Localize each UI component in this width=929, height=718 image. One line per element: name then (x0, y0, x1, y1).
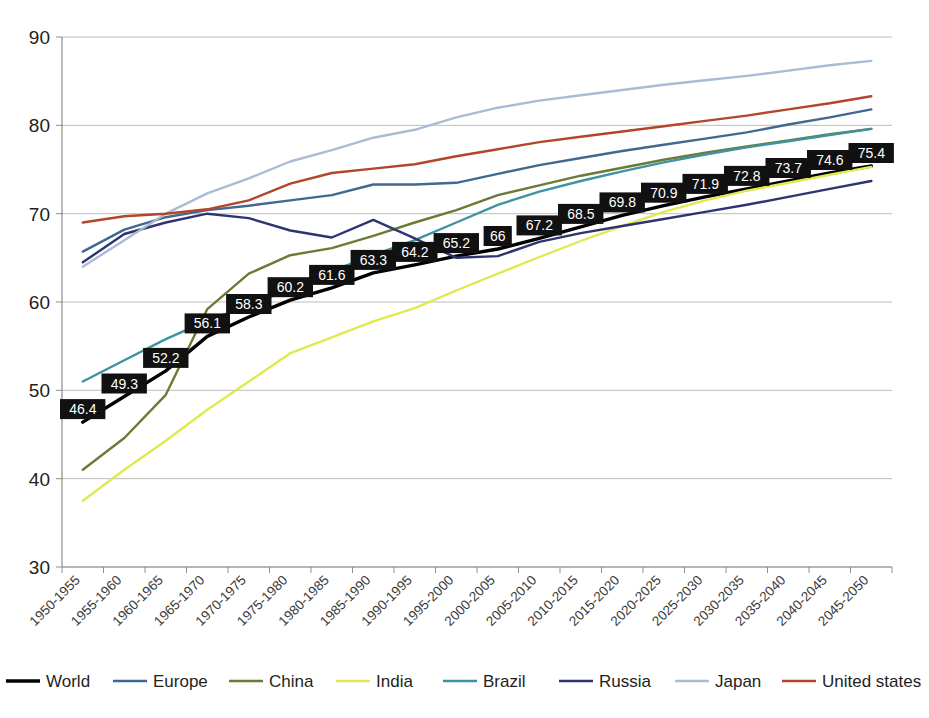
data-label-value: 72.8 (733, 168, 760, 184)
data-label: 74.6 (807, 150, 852, 170)
data-label: 67.2 (517, 215, 562, 235)
data-label: 71.9 (683, 174, 728, 194)
legend-label: Europe (153, 672, 208, 691)
legend-label: Japan (715, 672, 761, 691)
y-tick-label: 70 (29, 204, 50, 225)
data-label: 72.8 (724, 166, 769, 186)
y-tick-label: 90 (29, 27, 50, 48)
y-axis-tick-labels: 30405060708090 (29, 27, 50, 578)
data-label-value: 69.8 (609, 194, 636, 210)
legend-item-india[interactable]: India (336, 672, 413, 691)
data-label: 75.4 (849, 143, 894, 163)
data-label-value: 64.2 (401, 244, 428, 260)
data-label-value: 61.6 (318, 267, 345, 283)
axes-group (56, 37, 892, 573)
gridlines-group (62, 37, 892, 567)
data-label-value: 60.2 (277, 279, 304, 295)
legend-item-japan[interactable]: Japan (675, 672, 761, 691)
data-label-value: 49.3 (111, 376, 138, 392)
legend-label: United states (822, 672, 921, 691)
y-tick-label: 60 (29, 292, 50, 313)
y-tick-label: 50 (29, 380, 50, 401)
series-line-india (83, 167, 872, 501)
data-label-value: 75.4 (858, 145, 885, 161)
data-label: 66 (484, 226, 512, 246)
legend-item-brazil[interactable]: Brazil (443, 672, 526, 691)
data-label: 63.3 (351, 250, 396, 270)
data-label-value: 65.2 (443, 235, 470, 251)
data-label-value: 52.2 (152, 350, 179, 366)
legend-label: Russia (599, 672, 652, 691)
y-tick-label: 40 (29, 469, 50, 490)
data-label: 70.9 (641, 183, 686, 203)
data-label-value: 56.1 (194, 315, 221, 331)
data-label: 58.3 (226, 294, 271, 314)
legend-item-world[interactable]: World (6, 672, 90, 691)
legend-label: India (376, 672, 413, 691)
life-expectancy-line-chart: 30405060708090 1950-19551955-19601960-19… (0, 0, 929, 718)
legend-label: Brazil (483, 672, 526, 691)
data-label: 46.4 (60, 399, 105, 419)
data-label: 65.2 (434, 233, 479, 253)
y-tick-label: 30 (29, 557, 50, 578)
legend-item-europe[interactable]: Europe (113, 672, 208, 691)
data-label: 56.1 (185, 313, 230, 333)
data-label-value: 68.5 (567, 206, 594, 222)
x-axis-tick-labels: 1950-19551955-19601960-19651965-19701970… (27, 573, 872, 629)
legend-item-russia[interactable]: Russia (559, 672, 652, 691)
data-label-value: 67.2 (526, 217, 553, 233)
legend-item-united-states[interactable]: United states (782, 672, 921, 691)
legend-item-china[interactable]: China (229, 672, 314, 691)
y-tick-label: 80 (29, 115, 50, 136)
data-label-value: 66 (490, 228, 506, 244)
data-label: 73.7 (766, 158, 811, 178)
data-label-value: 46.4 (69, 401, 96, 417)
chart-plot-area: 30405060708090 1950-19551955-19601960-19… (0, 0, 929, 718)
data-label: 52.2 (143, 348, 188, 368)
data-label-value: 58.3 (235, 296, 262, 312)
data-label: 60.2 (268, 277, 313, 297)
data-label: 69.8 (600, 192, 645, 212)
data-label-value: 70.9 (650, 185, 677, 201)
data-label-value: 73.7 (775, 160, 802, 176)
data-label: 61.6 (309, 265, 354, 285)
chart-legend: WorldEuropeChinaIndiaBrazilRussiaJapanUn… (6, 672, 921, 691)
data-label: 64.2 (392, 242, 437, 262)
legend-label: World (46, 672, 90, 691)
data-label-value: 74.6 (816, 152, 843, 168)
data-label-value: 71.9 (692, 176, 719, 192)
data-label-value: 63.3 (360, 252, 387, 268)
legend-label: China (269, 672, 314, 691)
series-lines-group (83, 61, 872, 501)
data-label: 68.5 (558, 204, 603, 224)
data-label: 49.3 (102, 374, 147, 394)
